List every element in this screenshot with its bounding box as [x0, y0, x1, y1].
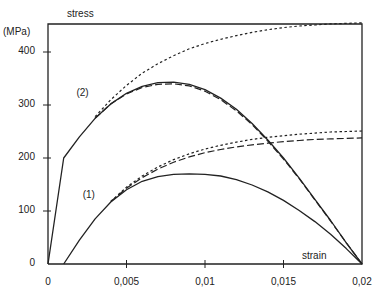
curves: [48, 23, 362, 264]
y-tick-label: 400: [5, 45, 35, 56]
y-tick-label: 100: [5, 204, 35, 215]
y-axis-label: stress: [67, 8, 94, 19]
curve-dashed: [95, 84, 362, 264]
axis-ticks: [43, 52, 284, 268]
x-tick-label: 0,005: [102, 276, 152, 287]
stress-strain-chart: stress (MPa) strain 0100200300400 00,005…: [0, 0, 386, 303]
y-tick-label: 300: [5, 98, 35, 109]
x-axis-label: strain: [302, 250, 326, 261]
plot-frame: [48, 24, 362, 264]
y-axis-unit: (MPa): [3, 26, 30, 37]
x-tick-label: 0: [23, 276, 73, 287]
curve-dotted: [95, 23, 362, 117]
y-tick-label: 0: [5, 257, 35, 268]
x-tick-label: 0,01: [180, 276, 230, 287]
curve-dashed: [111, 138, 362, 202]
curve-label: (1): [83, 189, 95, 200]
curve-label: (2): [76, 87, 88, 98]
plot-area: [0, 0, 386, 303]
x-tick-label: 0,015: [259, 276, 309, 287]
axes-frame: [48, 24, 362, 264]
y-tick-label: 200: [5, 151, 35, 162]
x-tick-label: 0,02: [337, 276, 386, 287]
curve-solid: [48, 82, 362, 264]
curve-dotted: [111, 131, 362, 202]
